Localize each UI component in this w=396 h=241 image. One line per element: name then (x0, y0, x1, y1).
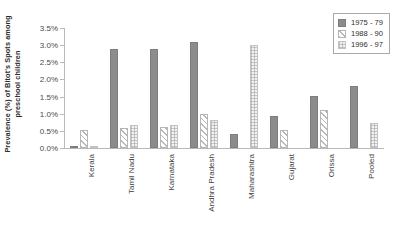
bar (230, 134, 238, 148)
x-axis-category-label: Maharashtra (247, 154, 256, 199)
bar (150, 49, 158, 148)
bar-group (224, 28, 264, 148)
bar (350, 86, 358, 148)
bar (210, 120, 218, 148)
bar (280, 130, 288, 148)
y-axis-tick (60, 148, 64, 149)
legend-label: 1996 - 97 (351, 40, 383, 49)
hatched-swatch (338, 30, 346, 38)
y-axis-title: Prevalence (%) of Bitot's Spots among pr… (1, 0, 25, 169)
bar-group (144, 28, 184, 148)
bar (120, 128, 128, 148)
bar (370, 123, 378, 148)
x-axis-category-label: Orissa (327, 154, 336, 177)
legend-entry: 1996 - 97 (338, 39, 383, 50)
y-axis-tick-label: 3.0% (40, 41, 58, 50)
y-axis-tick-label: 1.5% (40, 92, 58, 101)
x-axis-category-label: Kerala (87, 154, 96, 177)
solid-gray-swatch (338, 19, 346, 27)
bar-group (104, 28, 144, 148)
bar (90, 146, 98, 148)
x-axis-category-label: Tamil Nadu (127, 154, 136, 194)
x-axis-category-label: Gujarat (287, 154, 296, 180)
bar (270, 116, 278, 148)
bar-group (184, 28, 224, 148)
x-axis-category-label: Karnataka (167, 154, 176, 190)
legend-entry: 1988 - 90 (338, 28, 383, 39)
y-axis-tick-label: 0.0% (40, 144, 58, 153)
bar (80, 130, 88, 148)
bar (70, 146, 78, 148)
checkered-swatch (338, 41, 346, 49)
bar-group (264, 28, 304, 148)
bar (310, 96, 318, 148)
x-axis-category-label: Andhra Pradesh (207, 154, 216, 212)
legend-entry: 1975 - 79 (338, 17, 383, 28)
y-axis-tick-label: 0.5% (40, 126, 58, 135)
bar (160, 127, 168, 148)
bar (170, 125, 178, 148)
y-axis-tick-label: 1.0% (40, 109, 58, 118)
x-axis-category-label: Pooled (367, 154, 376, 179)
chart-legend: 1975 - 791988 - 901996 - 97 (333, 13, 390, 54)
y-axis-title-text: Prevalence (%) of Bitot's Spots among pr… (3, 15, 22, 152)
legend-label: 1975 - 79 (351, 18, 383, 27)
bar-chart-figure: Prevalence (%) of Bitot's Spots among pr… (0, 0, 396, 241)
legend-label: 1988 - 90 (351, 29, 383, 38)
bar (200, 114, 208, 148)
y-axis-tick-label: 3.5% (40, 24, 58, 33)
bar-group (64, 28, 104, 148)
bar (250, 45, 258, 148)
bar (130, 125, 138, 148)
bar (190, 42, 198, 148)
y-axis-tick-label: 2.0% (40, 75, 58, 84)
y-axis-tick-label: 2.5% (40, 58, 58, 67)
bar (320, 110, 328, 148)
bar (110, 49, 118, 148)
x-axis-line (64, 148, 384, 149)
